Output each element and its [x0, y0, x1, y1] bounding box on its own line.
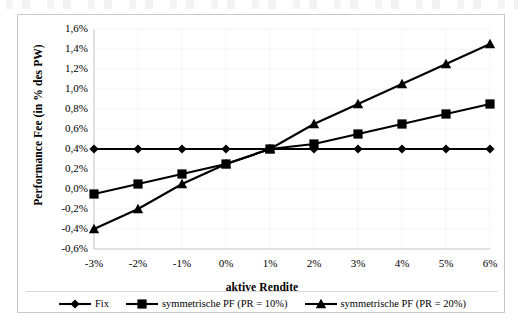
chart-page: 1,6%1,4%1,2%1,0%0,8%0,6%0,4%0,2%0,0%-0,2…: [0, 0, 518, 333]
series-layer: [89, 39, 495, 233]
gridlines: [94, 29, 490, 249]
y-axis-tick-label: 1,6%: [38, 22, 88, 34]
x-axis-tick-label: -1%: [160, 257, 204, 269]
x-axis-tick-label: 4%: [380, 257, 424, 269]
chart-legend: Fixsymmetrische PF (PR = 10%)symmetrisch…: [18, 297, 506, 311]
legend-item-label: symmetrische PF (PR = 10%): [162, 299, 288, 310]
y-axis-title: Performance Fee (in % des PW): [32, 25, 44, 225]
x-axis-tick-label: 2%: [292, 257, 336, 269]
y-axis-tick-label: 1,4%: [38, 42, 88, 54]
y-axis-tick-label: 0,6%: [38, 122, 88, 134]
y-axis-tick-label: 0,2%: [38, 162, 88, 174]
y-axis-tick-label: 0,8%: [38, 102, 88, 114]
legend-triangle-icon: [304, 297, 338, 311]
legend-item-label: Fix: [95, 299, 109, 310]
y-axis-tick-label: 1,2%: [38, 62, 88, 74]
axis-lines: [94, 29, 490, 249]
y-axis-tick-label: -0,6%: [38, 242, 88, 254]
chart-plot-area: [18, 15, 506, 314]
y-axis-tick-label: -0,4%: [38, 222, 88, 234]
y-axis-tick-label: 0,0%: [38, 182, 88, 194]
legend-divider: [26, 291, 498, 292]
legend-square-icon: [125, 297, 159, 311]
legend-item-label: symmetrische PF (PR = 20%): [341, 299, 467, 310]
x-axis-tick-label: 5%: [424, 257, 468, 269]
x-axis-tick-label: 1%: [248, 257, 292, 269]
legend-item[interactable]: symmetrische PF (PR = 10%): [125, 297, 288, 311]
x-axis-tick-label: 6%: [468, 257, 512, 269]
chart-frame: 1,6%1,4%1,2%1,0%0,8%0,6%0,4%0,2%0,0%-0,2…: [17, 14, 505, 313]
y-axis-tick-label: 1,0%: [38, 82, 88, 94]
y-axis-tick-label: 0,4%: [38, 142, 88, 154]
x-axis-tick-label: -2%: [116, 257, 160, 269]
legend-diamond-icon: [58, 297, 92, 311]
scan-artifact: [0, 0, 518, 9]
x-axis-tick-label: 0%: [204, 257, 248, 269]
legend-item[interactable]: symmetrische PF (PR = 20%): [304, 297, 467, 311]
x-axis-tick-label: 3%: [336, 257, 380, 269]
legend-item[interactable]: Fix: [58, 297, 109, 311]
x-axis-tick-label: -3%: [72, 257, 116, 269]
y-axis-tick-label: -0,2%: [38, 202, 88, 214]
